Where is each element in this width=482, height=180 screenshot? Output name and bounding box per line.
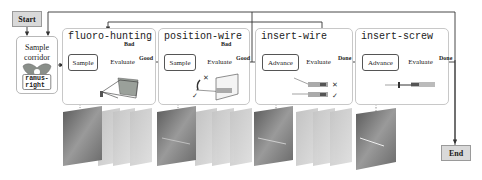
svg-text:✕: ✕ [332,81,338,89]
wire-orientation-plane-icon: ✕ ✓ [186,72,244,102]
process-advance-4: Advance [362,54,399,71]
process-sample-1: Sample [68,54,98,71]
decision-label-4: Evaluate [403,58,438,66]
exit-label-good-1: Good [139,55,153,61]
image-stack-insert-wire [254,106,352,166]
svg-text:✕: ✕ [203,74,209,82]
stage-title: insert-screw [361,31,433,42]
decision-label-1: Evaluate [106,58,139,66]
image-stack-fluoro-hunting [63,106,152,166]
start-terminal: Start [12,11,42,27]
svg-text:✓: ✓ [192,92,198,100]
camera-frustum-pelvis-icon [98,76,142,102]
corridor-tag: ramus-right [22,74,51,90]
process-advance-3: Advance [262,54,299,71]
process-sample-2: Sample [164,54,196,71]
decision-label-3: Evaluate [301,58,336,66]
corridor-title: Samplecorridor [17,43,57,63]
loop-label-bad-2: Bad [221,41,231,47]
stage-title: fluoro-hunting [68,31,152,42]
fluoroscopy-image-stacks [0,100,482,180]
start-label: Start [18,15,35,24]
exit-label-done-4: Done [439,55,452,61]
sample-corridor-box: Samplecorridor ramus-right [16,36,58,94]
wire-insertion-check-icon: ✕ ✓ [290,74,340,102]
decision-label-2: Evaluate [203,58,236,66]
exit-label-done-3: Done [338,55,351,61]
image-stack-position-wire [157,106,252,166]
exit-label-good-2: Good [236,55,250,61]
stage-title: insert-wire [261,31,327,42]
svg-text:✓: ✓ [332,92,338,100]
screw-insertion-icon [385,80,437,90]
image-stack-insert-screw [356,108,396,170]
loop-label-bad-1: Bad [124,41,134,47]
